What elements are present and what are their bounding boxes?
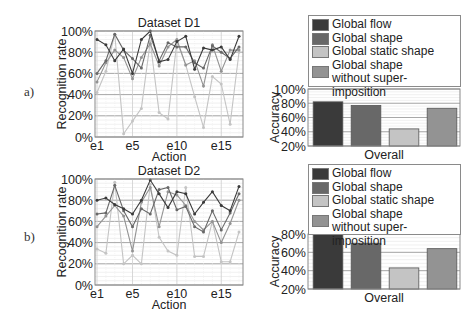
legend-item-global-shape: Global shape bbox=[309, 32, 460, 46]
legend-item-global-shape: Global shape bbox=[309, 181, 460, 195]
legend-item-global-flow: Global flow bbox=[309, 167, 460, 181]
legend-swatch-global-flow bbox=[312, 19, 329, 31]
legend-item-global-shape-wo-superimposition: Global shapewithout super-imposition bbox=[309, 208, 460, 249]
svg-text:20%: 20% bbox=[281, 283, 306, 297]
legend-swatch-global-static-shape bbox=[312, 46, 329, 58]
legend-item-global-shape-wo-superimposition: Global shapewithout super-imposition bbox=[309, 59, 460, 100]
legend-item-global-flow: Global flow bbox=[309, 18, 460, 32]
legend-swatch-global-shape-wo-superimposition bbox=[312, 66, 329, 78]
svg-text:60%: 60% bbox=[281, 246, 306, 260]
svg-text:80%: 80% bbox=[281, 228, 306, 242]
svg-text:40%: 40% bbox=[281, 264, 306, 278]
svg-text:Overall: Overall bbox=[364, 291, 404, 305]
legend-bottom: Global flow Global shape Global static s… bbox=[308, 164, 461, 235]
legend-swatch-global-shape bbox=[312, 182, 329, 194]
legend-swatch-global-shape bbox=[312, 33, 329, 45]
svg-text:Accuracy: Accuracy bbox=[268, 235, 282, 287]
legend-swatch-global-flow bbox=[312, 168, 329, 180]
legend-swatch-global-shape-wo-superimposition bbox=[312, 215, 329, 227]
legend-swatch-global-static-shape bbox=[312, 195, 329, 207]
legend-item-global-static-shape: Global static shape bbox=[309, 45, 460, 59]
legend-item-global-static-shape: Global static shape bbox=[309, 194, 460, 208]
legend-top: Global flow Global shape Global static s… bbox=[308, 15, 461, 87]
